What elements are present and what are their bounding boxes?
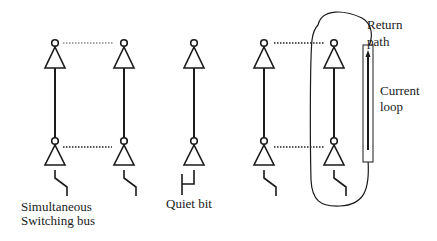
driver-column-4 bbox=[324, 40, 346, 196]
buffer-triangle-icon bbox=[254, 145, 274, 165]
buffer-triangle-icon bbox=[184, 47, 204, 68]
switch-icon bbox=[264, 170, 276, 196]
label-return: Return bbox=[367, 18, 402, 32]
buffer-triangle-icon bbox=[184, 145, 204, 165]
driver-column-2 bbox=[114, 40, 136, 196]
buffer-triangle-icon bbox=[114, 145, 134, 165]
driver-column-1 bbox=[45, 40, 67, 196]
buffer-triangle-icon bbox=[324, 47, 344, 68]
label-quiet-bit: Quiet bit bbox=[166, 197, 212, 211]
label-switching-bus: Switching bus bbox=[21, 214, 95, 228]
driver-column-quiet bbox=[182, 40, 204, 195]
label-current: Current bbox=[380, 84, 420, 98]
driver-column-3 bbox=[254, 40, 276, 196]
label-loop: loop bbox=[380, 100, 403, 114]
buffer-triangle-icon bbox=[45, 145, 65, 165]
current-loop-outline bbox=[310, 12, 371, 206]
buffer-triangle-icon bbox=[254, 47, 274, 68]
buffer-triangle-icon bbox=[45, 47, 65, 68]
switch-icon bbox=[124, 170, 136, 196]
label-path: path bbox=[367, 35, 389, 49]
buffer-triangle-icon bbox=[324, 145, 344, 165]
switch-icon bbox=[334, 170, 346, 196]
label-simultaneous: Simultaneous bbox=[21, 200, 92, 214]
switch-icon bbox=[55, 170, 67, 196]
buffer-triangle-icon bbox=[114, 47, 134, 68]
ground-tie-icon bbox=[182, 170, 194, 184]
